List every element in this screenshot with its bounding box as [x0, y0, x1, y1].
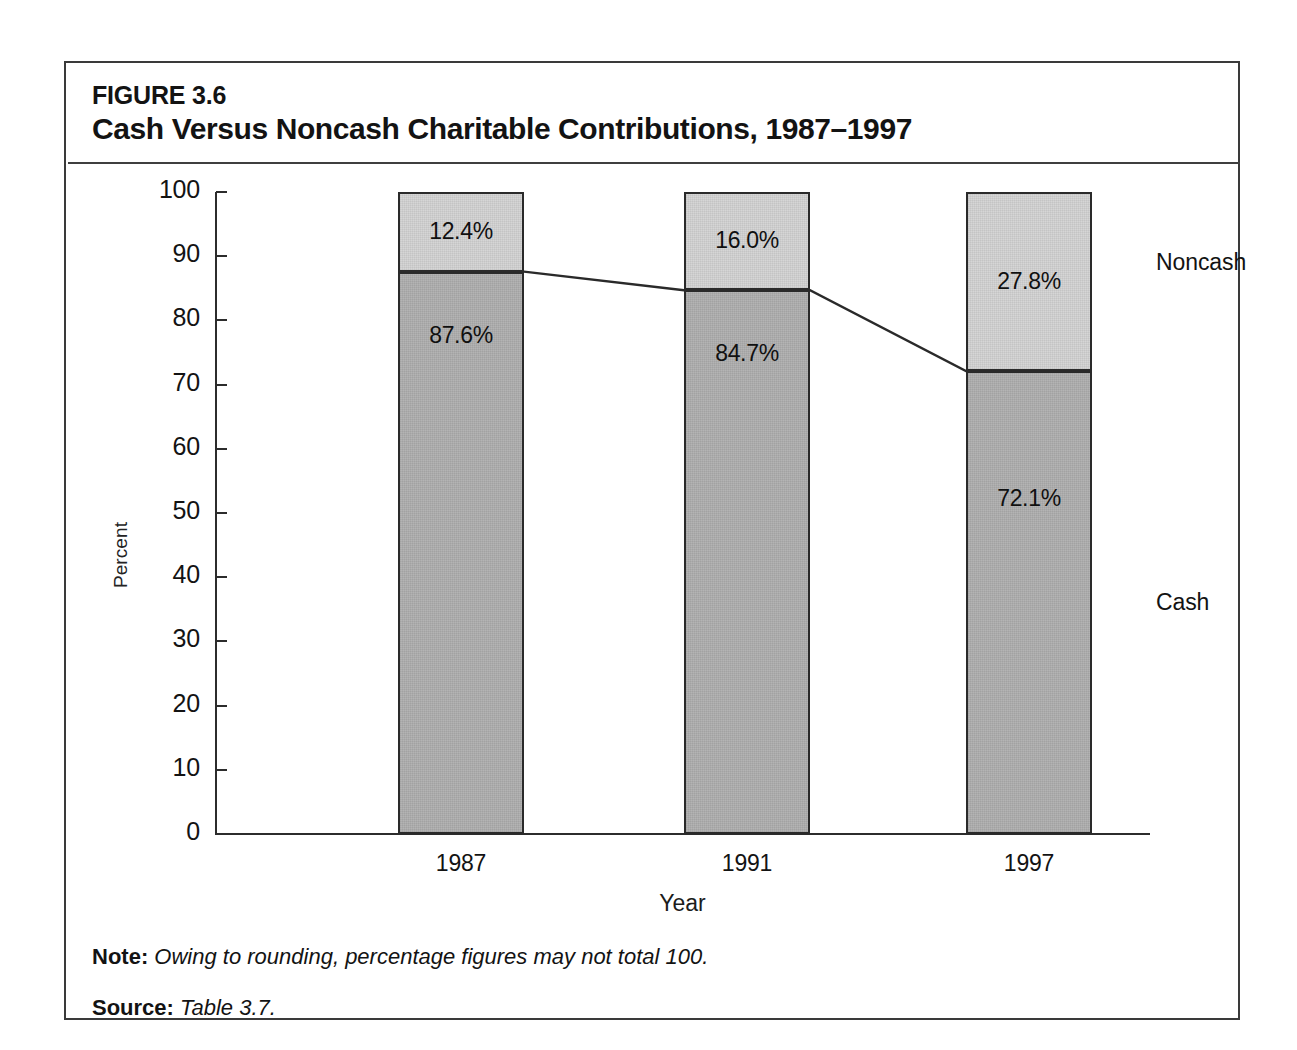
bar-value-label-noncash: 27.8% [968, 268, 1090, 295]
x-tick-label: 1987 [391, 850, 531, 877]
y-tick-mark [216, 255, 227, 257]
bar-value-label-cash: 87.6% [400, 322, 522, 349]
y-tick-label: 30 [132, 624, 200, 653]
y-tick-mark [216, 640, 227, 642]
bar-segment-cash[interactable]: 84.7% [684, 290, 810, 834]
bar-segment-cash[interactable]: 72.1% [966, 371, 1092, 834]
y-tick-label: 40 [132, 560, 200, 589]
y-tick-mark [216, 319, 227, 321]
x-axis-title: Year [215, 890, 1150, 917]
y-tick-mark [216, 384, 227, 386]
y-tick-mark [216, 833, 227, 835]
y-axis-title: Percent [110, 495, 132, 615]
bar-group[interactable]: 12.4%87.6% [398, 192, 524, 834]
bar-value-label-cash: 72.1% [968, 485, 1090, 512]
bar-value-label-noncash: 12.4% [400, 218, 522, 245]
page-title: Cash Versus Noncash Charitable Contribut… [92, 111, 1212, 146]
legend-label-cash: Cash [1156, 589, 1209, 616]
note-label: Note: [92, 944, 148, 969]
bar-segment-noncash[interactable]: 12.4% [398, 192, 524, 272]
x-tick-label: 1991 [677, 850, 817, 877]
y-tick-label: 80 [132, 303, 200, 332]
legend-label-noncash: Noncash [1156, 249, 1246, 276]
y-tick-mark [216, 448, 227, 450]
bar-value-label-noncash: 16.0% [686, 227, 808, 254]
y-tick-label: 90 [132, 239, 200, 268]
y-tick-label: 70 [132, 368, 200, 397]
y-tick-mark [216, 512, 227, 514]
y-tick-mark [216, 705, 227, 707]
y-tick-label: 20 [132, 689, 200, 718]
y-tick-mark [216, 769, 227, 771]
bar-group[interactable]: 16.0%84.7% [684, 192, 810, 834]
figure-frame: FIGURE 3.6 Cash Versus Noncash Charitabl… [64, 61, 1240, 1020]
figure-number: FIGURE 3.6 [92, 81, 1212, 109]
x-tick-label: 1997 [959, 850, 1099, 877]
source-label: Source: [92, 995, 174, 1020]
y-tick-label: 50 [132, 496, 200, 525]
y-tick-label: 0 [132, 817, 200, 846]
figure-header: FIGURE 3.6 Cash Versus Noncash Charitabl… [92, 81, 1212, 146]
source-row: Source: Table 3.7. [92, 994, 1212, 1023]
y-tick-label: 100 [132, 175, 200, 204]
bar-segment-noncash[interactable]: 16.0% [684, 192, 810, 290]
bar-segment-cash[interactable]: 87.6% [398, 272, 524, 834]
y-tick-label: 60 [132, 432, 200, 461]
bar-value-label-cash: 84.7% [686, 340, 808, 367]
bar-segment-noncash[interactable]: 27.8% [966, 192, 1092, 371]
bar-group[interactable]: 27.8%72.1% [966, 192, 1092, 834]
source-text: Table 3.7. [180, 995, 276, 1020]
y-tick-label: 10 [132, 753, 200, 782]
y-tick-mark [216, 576, 227, 578]
note-row: Note: Owing to rounding, percentage figu… [92, 943, 1212, 972]
y-tick-mark [216, 191, 227, 193]
figure-notes: Note: Owing to rounding, percentage figu… [92, 943, 1212, 1044]
note-text: Owing to rounding, percentage figures ma… [154, 944, 708, 969]
chart-plot-area: Percent 0102030405060708090100 12.4%87.6… [66, 164, 1238, 904]
